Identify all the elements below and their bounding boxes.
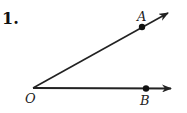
point-b bbox=[143, 85, 149, 91]
ray-oa bbox=[33, 13, 168, 88]
ray-ob bbox=[33, 88, 171, 89]
label-b: B bbox=[140, 93, 150, 108]
label-o: O bbox=[25, 91, 36, 106]
label-a: A bbox=[137, 9, 146, 24]
point-a bbox=[139, 24, 145, 30]
